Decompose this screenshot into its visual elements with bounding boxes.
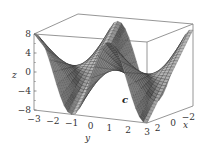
- x-axis-ticks: 20−2: [155, 112, 195, 133]
- y-tick-label: −3: [27, 114, 41, 124]
- z-tick-label: 8: [25, 29, 31, 39]
- surface-plot: 840−4−8 −3−2−10123 20−2 z y x c: [0, 0, 212, 155]
- x-tick-label: 2: [155, 123, 161, 133]
- x-tick-label: 0: [170, 118, 176, 128]
- y-tick-label: −1: [65, 118, 78, 128]
- box-edge-left-top: [34, 14, 78, 34]
- z-axis-label: z: [11, 70, 17, 80]
- box-edge-back-top: [78, 14, 193, 24]
- y-tick-label: 1: [106, 123, 112, 133]
- y-tick-label: 2: [125, 125, 131, 135]
- panel-label: c: [122, 94, 128, 105]
- z-tick-label: −4: [18, 86, 32, 96]
- x-axis-label: x: [183, 120, 188, 130]
- z-tick-label: 0: [25, 67, 31, 77]
- z-tick-label: 4: [25, 48, 31, 58]
- y-axis-label: y: [84, 133, 91, 143]
- surface-mesh: [34, 21, 193, 123]
- y-tick-label: 0: [88, 121, 94, 131]
- y-tick-label: 3: [144, 127, 150, 137]
- y-tick-label: −2: [46, 116, 59, 126]
